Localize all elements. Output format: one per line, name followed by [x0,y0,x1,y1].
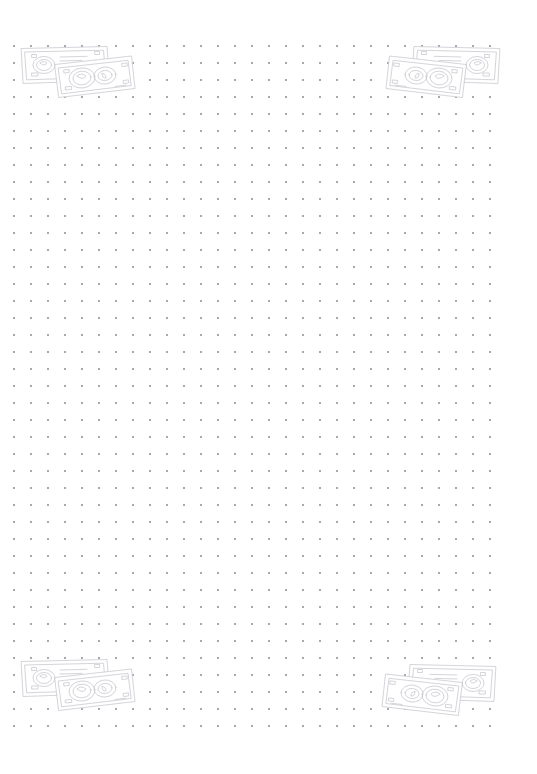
grid-dot [268,45,270,47]
grid-dot [81,334,83,336]
grid-dot [319,351,321,353]
grid-dot [319,691,321,693]
grid-dot [81,215,83,217]
grid-dot [47,589,49,591]
grid-dot [217,232,219,234]
grid-dot [404,589,406,591]
grid-dot [200,640,202,642]
grid-dot [251,691,253,693]
grid-dot [166,504,168,506]
grid-dot [268,725,270,727]
grid-dot [455,215,457,217]
grid-dot [438,249,440,251]
grid-dot [336,368,338,370]
grid-dot [387,657,389,659]
grid-dot [149,351,151,353]
grid-dot [302,283,304,285]
grid-dot [404,147,406,149]
grid-dot [370,249,372,251]
grid-dot [30,147,32,149]
grid-dot [200,453,202,455]
grid-dot [455,130,457,132]
grid-dot [472,402,474,404]
grid-dot [30,351,32,353]
grid-dot [336,453,338,455]
grid-dot [47,198,49,200]
grid-dot [370,368,372,370]
grid-dot [234,674,236,676]
grid-dot [438,232,440,234]
grid-dot [234,555,236,557]
grid-dot [200,504,202,506]
grid-dot [149,725,151,727]
grid-dot [404,334,406,336]
grid-dot [438,504,440,506]
grid-dot [387,232,389,234]
grid-dot [421,334,423,336]
grid-dot [285,45,287,47]
money-sketch-top-right [385,44,507,99]
grid-dot [217,385,219,387]
grid-dot [404,419,406,421]
grid-dot [438,555,440,557]
grid-dot [183,79,185,81]
grid-dot [336,215,338,217]
grid-dot [472,623,474,625]
grid-dot [183,708,185,710]
grid-dot [47,334,49,336]
grid-dot [353,708,355,710]
grid-dot [13,266,15,268]
grid-dot [98,147,100,149]
grid-dot [30,538,32,540]
grid-dot [455,266,457,268]
grid-dot [319,181,321,183]
grid-dot [302,266,304,268]
grid-dot [285,504,287,506]
grid-dot [387,453,389,455]
grid-dot [353,45,355,47]
grid-dot [217,606,219,608]
grid-dot [30,317,32,319]
grid-dot [115,589,117,591]
grid-dot [166,589,168,591]
grid-dot [217,249,219,251]
grid-dot [370,402,372,404]
grid-dot [319,113,321,115]
grid-dot [336,198,338,200]
grid-dot [149,334,151,336]
grid-dot [132,538,134,540]
grid-dot [285,249,287,251]
grid-dot [166,368,168,370]
grid-dot [285,708,287,710]
grid-dot [149,691,151,693]
grid-dot [319,385,321,387]
grid-dot [353,147,355,149]
grid-dot [217,470,219,472]
grid-dot [489,300,491,302]
grid-dot [455,249,457,251]
grid-dot [217,96,219,98]
grid-dot [268,130,270,132]
grid-dot [268,351,270,353]
grid-dot [200,725,202,727]
grid-dot [115,623,117,625]
grid-dot [302,521,304,523]
grid-dot [489,181,491,183]
grid-dot [285,96,287,98]
grid-dot [132,725,134,727]
grid-dot [132,606,134,608]
grid-dot [115,555,117,557]
grid-dot [115,606,117,608]
grid-dot [234,572,236,574]
grid-dot [13,402,15,404]
grid-dot [183,232,185,234]
grid-dot [47,521,49,523]
grid-dot [234,181,236,183]
grid-dot [370,538,372,540]
grid-dot [404,470,406,472]
grid-dot [166,402,168,404]
grid-dot [149,113,151,115]
grid-dot [404,130,406,132]
grid-dot [166,130,168,132]
grid-dot [47,385,49,387]
